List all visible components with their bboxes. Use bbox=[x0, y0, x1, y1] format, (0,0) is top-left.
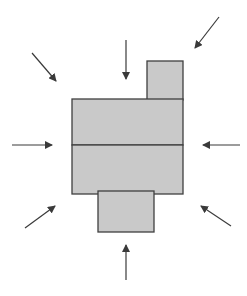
shapes-layer bbox=[72, 61, 183, 232]
diagram-svg bbox=[0, 0, 247, 296]
arrow-top-right-icon bbox=[195, 17, 219, 48]
arrow-top-left-icon bbox=[32, 53, 56, 81]
diagram-canvas bbox=[0, 0, 247, 296]
main-block-upper bbox=[72, 99, 183, 145]
main-block-lower bbox=[72, 145, 183, 194]
top-block bbox=[147, 61, 183, 100]
arrow-bottom-right-icon bbox=[201, 206, 231, 226]
arrow-bottom-left-icon bbox=[25, 206, 55, 228]
bottom-block bbox=[98, 191, 154, 232]
